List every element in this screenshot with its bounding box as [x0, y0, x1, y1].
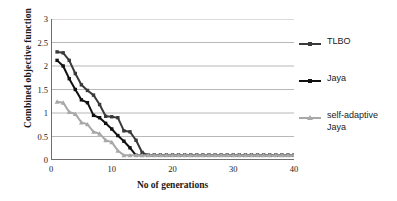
- x-tick-label: 40: [279, 164, 309, 174]
- legend-item-label: Jaya: [327, 73, 346, 85]
- y-tick-label: 3: [26, 15, 48, 23]
- y-tick-label: 1: [26, 109, 48, 117]
- legend-item-2[interactable]: Jaya: [298, 73, 346, 85]
- legend-item-3[interactable]: self-adaptive Jaya: [298, 110, 378, 133]
- legend-item-1[interactable]: TLBO: [298, 36, 351, 48]
- y-tick-label: 1.5: [26, 86, 48, 94]
- plot-area: [51, 19, 294, 160]
- x-tick-label: 10: [97, 164, 127, 174]
- legend-marker-icon: [298, 73, 322, 85]
- y-tick-label: 0: [26, 156, 48, 164]
- chart-plot-svg: [51, 19, 294, 160]
- chart-legend: TLBOJayaself-adaptive Jaya: [298, 28, 394, 138]
- legend-item-label: self-adaptive Jaya: [327, 110, 378, 133]
- legend-item-label: TLBO: [327, 36, 351, 48]
- y-tick-label: 2: [26, 62, 48, 70]
- x-tick-label: 0: [36, 164, 66, 174]
- series-2: [55, 59, 294, 157]
- chart-figure: Combined objective function 00.511.522.5…: [0, 0, 397, 201]
- legend-marker-icon: [298, 36, 322, 48]
- y-axis-tick-labels: 00.511.522.53: [24, 19, 48, 160]
- gridlines: [51, 19, 294, 137]
- y-tick-label: 0.5: [26, 133, 48, 141]
- x-tick-label: 20: [158, 164, 188, 174]
- y-tick-label: 2.5: [26, 39, 48, 47]
- legend-marker-icon: [298, 110, 322, 122]
- x-axis-title: No of generations: [51, 180, 294, 190]
- x-axis-tick-labels: 010203040: [51, 164, 294, 178]
- x-tick-label: 30: [218, 164, 248, 174]
